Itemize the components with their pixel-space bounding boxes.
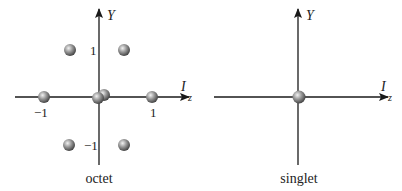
- octet-point: [38, 91, 50, 103]
- octet-point: [63, 139, 75, 151]
- octet-point: [118, 44, 130, 56]
- octet-tick-y-pos: 1: [90, 43, 97, 58]
- singlet-y-axis-label: Y: [306, 8, 316, 23]
- octet-tick-y-neg: −1: [84, 138, 98, 153]
- singlet-caption: singlet: [280, 171, 317, 186]
- octet-point: [64, 44, 76, 56]
- octet-caption: octet: [85, 171, 112, 186]
- singlet-x-axis-label: I: [380, 79, 387, 94]
- octet-x-axis-subscript: z: [187, 92, 192, 103]
- octet-point: [118, 139, 130, 151]
- octet-y-axis-label: Y: [107, 8, 117, 23]
- octet-tick-x-pos: 1: [150, 105, 157, 120]
- octet-point: [92, 92, 104, 104]
- octet-tick-x-neg: −1: [34, 105, 48, 120]
- singlet-x-axis-subscript: z: [387, 92, 392, 103]
- singlet-point: [293, 91, 306, 104]
- octet-x-axis-label: I: [180, 79, 187, 94]
- singlet-diagram: Y I z singlet: [214, 8, 392, 186]
- octet-diagram: Y I z 1 −1 −1 1 octet: [15, 8, 192, 186]
- octet-point: [146, 91, 158, 103]
- weight-diagrams: Y I z 1 −1 −1 1 octet Y I z singlet: [0, 0, 402, 191]
